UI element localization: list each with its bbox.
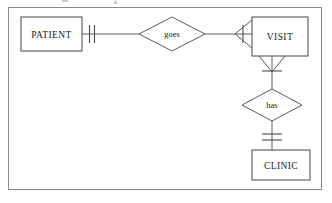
entity-visit-label: VISIT — [267, 32, 293, 42]
entity-patient-label: PATIENT — [31, 30, 71, 40]
top-crop-artifact-right — [114, 1, 117, 4]
relationship-has-label: has — [266, 100, 277, 110]
top-crop-artifact-left — [62, 0, 68, 2]
er-diagram-svg: goes has PATIENT VISIT CLINIC — [0, 0, 332, 203]
er-diagram-canvas: goes has PATIENT VISIT CLINIC — [0, 0, 332, 203]
relationship-goes-label: goes — [164, 29, 180, 39]
entity-clinic-label: CLINIC — [264, 161, 298, 171]
